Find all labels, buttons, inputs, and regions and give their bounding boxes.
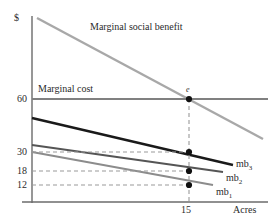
series-label-mb3: mb3	[236, 158, 252, 172]
equilibrium-point-e	[186, 96, 192, 102]
series-line-mb2	[32, 145, 223, 172]
series-label-mb1-text: mb	[216, 186, 229, 197]
series-label-mb3-subscript: 3	[249, 164, 253, 172]
x-tick-label-15: 15	[181, 204, 191, 215]
marginal-social-benefit-label: Marginal social benefit	[90, 21, 183, 32]
mb1-point	[186, 182, 192, 188]
equilibrium-point-label: e	[186, 85, 190, 94]
y-tick-label-12: 12	[5, 179, 27, 190]
series-label-mb3-text: mb	[236, 158, 249, 169]
marginal-cost-label: Marginal cost	[38, 83, 93, 94]
mb2-point	[186, 168, 192, 174]
chart-container: $ 60 30 18 12 15 Acres Marginal social b…	[0, 0, 270, 218]
mb3-point	[186, 149, 192, 155]
y-tick-label-18: 18	[5, 165, 27, 176]
series-label-mb1: mb1	[216, 186, 232, 200]
series-label-mb2: mb2	[226, 172, 242, 186]
y-tick-label-60: 60	[5, 93, 27, 104]
series-label-mb1-subscript: 1	[229, 192, 233, 200]
series-label-mb2-text: mb	[226, 172, 239, 183]
series-line-marginal-social-benefit	[37, 18, 263, 139]
x-axis-title: Acres	[233, 204, 256, 215]
y-axis-title: $	[14, 12, 19, 23]
series-label-mb2-subscript: 2	[239, 178, 243, 186]
y-tick-label-30: 30	[5, 146, 27, 157]
